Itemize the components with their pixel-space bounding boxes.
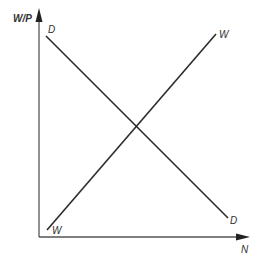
y-axis-arrow-icon	[36, 8, 43, 22]
demand-label-end: D	[230, 215, 237, 226]
x-axis-label: N	[241, 244, 249, 255]
supply-label-end: W	[219, 29, 230, 40]
demand-curve	[46, 36, 228, 218]
demand-label-start: D	[48, 24, 55, 35]
supply-label-start: W	[52, 225, 63, 236]
y-axis-label: W/P	[13, 13, 32, 24]
labor-market-diagram: W/P N D D W W	[0, 0, 263, 262]
x-axis-arrow-icon	[236, 234, 250, 241]
